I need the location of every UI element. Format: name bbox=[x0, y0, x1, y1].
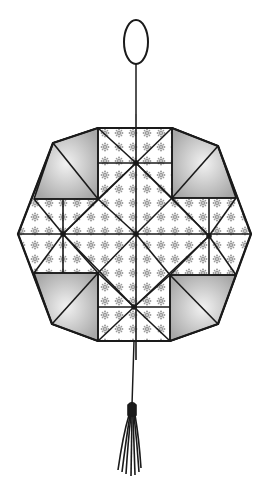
octagon-quilt-block bbox=[18, 114, 251, 360]
tassel bbox=[118, 403, 141, 477]
ornament-illustration bbox=[0, 0, 267, 491]
tassel-string bbox=[132, 341, 134, 405]
hanging-loop bbox=[124, 20, 148, 64]
